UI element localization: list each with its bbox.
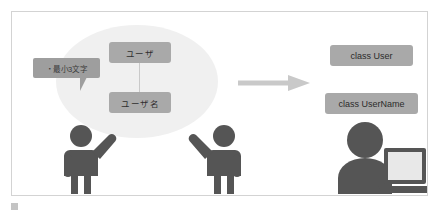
diagram-frame: ユーザ ユーザ名 ・最小3文字 class User class UserNam… [11, 11, 428, 196]
concept-box-user: ユーザ [109, 42, 171, 63]
constraint-callout-label: ・最小3文字 [46, 63, 87, 74]
concept-box-username-label: ユーザ名 [121, 97, 159, 109]
constraint-callout: ・最小3文字 [33, 58, 100, 78]
class-box-user-label: class User [350, 51, 392, 61]
concept-box-user-label: ユーザ [126, 47, 155, 59]
square-marker-icon [11, 203, 18, 210]
figure-caption [11, 200, 431, 212]
concept-box-username: ユーザ名 [109, 92, 171, 113]
callout-tail [80, 77, 87, 91]
class-box-username: class UserName [325, 93, 418, 114]
person-raising-hand-icon [180, 124, 248, 196]
class-box-user: class User [330, 45, 413, 66]
concept-connector-line [139, 63, 140, 92]
class-box-username-label: class UserName [338, 99, 404, 109]
person-raising-hand-icon [57, 124, 125, 196]
right-arrow-icon [238, 71, 310, 95]
person-with-laptop-icon [334, 120, 428, 196]
